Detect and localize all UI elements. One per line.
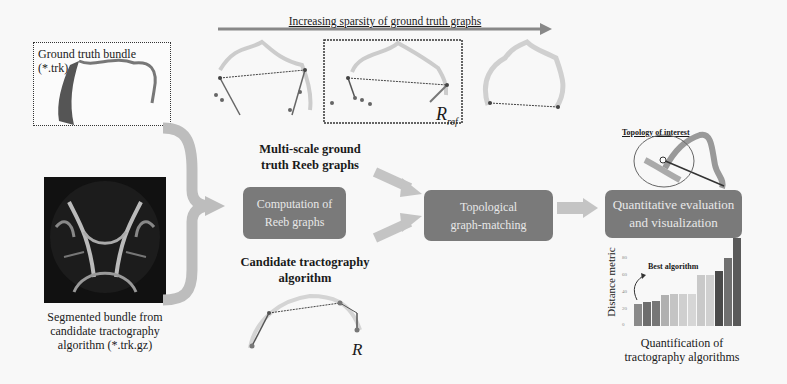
best-algorithm-arrow [608,238,758,330]
quantification-caption: Quantification of tractography algorithm… [612,336,752,364]
distance-metric-chart: Distance metric 0 20 40 60 80 Best algor… [608,238,758,330]
